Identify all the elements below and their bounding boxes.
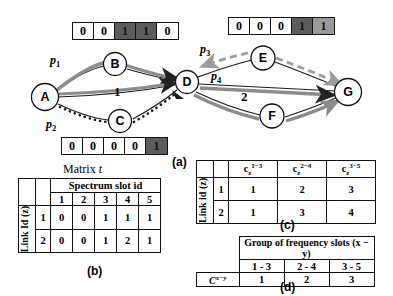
bitmap-top-right: 0 0 0 1 1 — [228, 17, 335, 35]
matrix-t-link-id: 2 — [36, 229, 51, 253]
node-label-B: B — [104, 53, 126, 75]
figure-root: A B C D E F G p1 p2 p3 p4 1 2 0 0 1 1 0 … — [0, 0, 393, 296]
table-c-cell: 4 — [327, 201, 376, 224]
table-row: Link Id (z) 1 0 0 1 1 1 — [19, 206, 161, 230]
bit-cell: 0 — [104, 138, 125, 154]
table-row: Link id (z) 1 1 2 3 — [197, 178, 376, 201]
matrix-t-cell: 1 — [95, 229, 117, 253]
matrix-t-row-group-header: Link Id (z) — [19, 206, 36, 253]
matrix-t-cell: 0 — [51, 229, 73, 253]
node-label-A: A — [34, 86, 56, 108]
table-c-cell: 1 — [229, 201, 278, 224]
table-d-row-label: Cx−y — [197, 273, 240, 287]
table-c-col-header: cz3−5 — [327, 161, 376, 178]
table-row: 1 - 3 2 - 4 3 - 5 — [197, 260, 375, 273]
graph-edges-thin — [58, 60, 338, 120]
table-d-range-header: 1 - 3 — [239, 260, 284, 273]
bit-cell: 1 — [136, 23, 157, 39]
matrix-t-cell: 1 — [117, 206, 139, 230]
table-d-blank-cell — [197, 260, 240, 273]
matrix-t-cell: 1 — [95, 206, 117, 230]
table-c: cz1−3 cz2−4 cz3−5 Link id (z) 1 1 2 3 2 — [196, 160, 376, 224]
bit-cell: 0 — [83, 138, 104, 154]
bit-cell: 0 — [250, 18, 271, 34]
table-c-corner-cell — [197, 161, 214, 178]
matrix-t-slot-header: 4 — [117, 193, 139, 206]
edge-label-2: 2 — [241, 89, 248, 105]
bit-cell: 0 — [62, 138, 83, 154]
bit-cell: 0 — [229, 18, 250, 34]
bitmap-top-left: 0 0 1 1 0 — [72, 22, 179, 40]
matrix-t-corner-cell2 — [36, 179, 51, 206]
bit-cell: 0 — [157, 23, 178, 39]
panel-b-label: (b) — [87, 264, 102, 278]
bitmap-bottom: 0 0 0 0 1 — [61, 137, 168, 155]
table-d-cell: 1 — [239, 273, 284, 287]
matrix-t-cell: 1 — [139, 229, 161, 253]
table-d-range-header: 3 - 5 — [329, 260, 374, 273]
bit-cell: 0 — [271, 18, 292, 34]
table-d-range-header: 2 - 4 — [284, 260, 329, 273]
bit-cell: 1 — [146, 138, 167, 154]
matrix-t-link-id: 1 — [36, 206, 51, 230]
panel-a-label: (a) — [172, 155, 187, 169]
matrix-t-slot-header: 3 — [95, 193, 117, 206]
matrix-t-corner-cell — [19, 179, 36, 206]
table-c-cell: 1 — [229, 178, 278, 201]
node-label-F: F — [261, 105, 283, 127]
panel-d-label: (d) — [280, 280, 295, 294]
table-c-col-header: cz2−4 — [278, 161, 327, 178]
bit-cell: 0 — [73, 23, 94, 39]
table-c-corner-cell2 — [214, 161, 229, 178]
table-c-row-group-header: Link id (z) — [197, 178, 214, 224]
matrix-t-row-group-header-text: Link Id (z) — [19, 206, 30, 252]
matrix-t-col-group-header: Spectrum slot id — [51, 179, 161, 193]
bit-cell: 1 — [313, 18, 334, 34]
table-row: 2 0 0 1 2 1 — [19, 229, 161, 253]
matrix-t-cell: 0 — [73, 206, 95, 230]
path-label-p2: p2 — [46, 117, 56, 133]
table-c-link-id: 1 — [214, 178, 229, 201]
matrix-t-slot-header: 1 — [51, 193, 73, 206]
matrix-t-cell: 0 — [73, 229, 95, 253]
path-p4 — [200, 88, 334, 95]
matrix-t-cell: 0 — [51, 206, 73, 230]
table-d-group-header: Group of frequency slots (x − y) — [239, 237, 374, 260]
node-label-D: D — [176, 71, 198, 93]
table-c-cell: 2 — [278, 178, 327, 201]
matrix-t-cell: 1 — [139, 206, 161, 230]
panel-c-label: (c) — [280, 218, 295, 232]
table-d-cell: 3 — [329, 273, 374, 287]
bit-cell: 0 — [94, 23, 115, 39]
bit-cell: 1 — [292, 18, 313, 34]
matrix-t-slot-header: 5 — [139, 193, 161, 206]
path-label-p3: p3 — [200, 42, 210, 58]
node-label-G: G — [337, 81, 359, 103]
matrix-t-slot-header: 2 — [73, 193, 95, 206]
bit-cell: 1 — [115, 23, 136, 39]
table-row: Group of frequency slots (x − y) — [197, 237, 375, 260]
matrix-t-title: Matrix t — [63, 162, 102, 177]
table-c-col-header: cz1−3 — [229, 161, 278, 178]
table-c-row-group-header-text: Link id (z) — [197, 178, 208, 223]
path-label-p1: p1 — [50, 53, 60, 69]
node-label-C: C — [109, 110, 131, 132]
table-c-cell: 3 — [327, 178, 376, 201]
table-c-link-id: 2 — [214, 201, 229, 224]
matrix-t-table: Spectrum slot id 1 2 3 4 5 Link Id (z) 1… — [18, 178, 161, 253]
edge-label-1: 1 — [114, 84, 121, 100]
table-row: Spectrum slot id — [19, 179, 161, 193]
bit-cell: 0 — [125, 138, 146, 154]
table-d-corner-cell — [197, 237, 240, 260]
table-row: cz1−3 cz2−4 cz3−5 — [197, 161, 376, 178]
node-label-E: E — [252, 47, 274, 69]
path-label-p4: p4 — [211, 69, 221, 85]
matrix-t-cell: 2 — [117, 229, 139, 253]
